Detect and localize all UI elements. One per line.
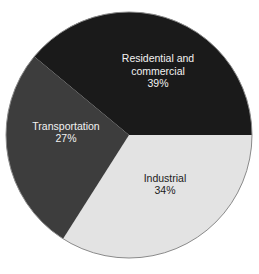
pie-slices-group [6,12,252,258]
pie-label-transportation-value: 27% [55,132,76,144]
pie-chart-figure: Residential and commercial 39% Industria… [0,0,259,274]
pie-label-transportation-line1: Transportation [32,120,99,132]
pie-label-residential-line2: commercial [131,65,185,77]
pie-label-residential-line1: Residential and [122,52,195,64]
pie-label-industrial-value: 34% [154,184,175,196]
pie-chart-svg: Residential and commercial 39% Industria… [0,0,259,274]
pie-label-industrial-line1: Industrial [144,172,187,184]
pie-label-residential-value: 39% [147,77,168,89]
